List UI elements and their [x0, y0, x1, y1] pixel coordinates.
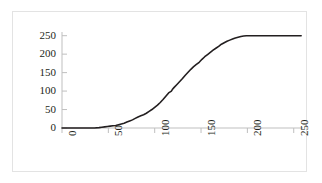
- x-tick-label: 0: [67, 131, 78, 137]
- x-tick-label: 250: [299, 120, 310, 137]
- y-tick-label: 150: [22, 67, 56, 78]
- y-tick-marks: [62, 36, 67, 128]
- axis-lines: [62, 32, 303, 128]
- x-tick-label: 200: [252, 120, 263, 137]
- x-tick-label: 50: [113, 125, 124, 136]
- data-series-line: [62, 36, 301, 128]
- y-tick-label: 100: [22, 85, 56, 96]
- x-tick-label: 150: [206, 120, 217, 137]
- y-tick-label: 50: [22, 104, 56, 115]
- chart-figure: 050100150200250 050100150200250: [0, 0, 322, 183]
- y-tick-label: 200: [22, 48, 56, 59]
- y-tick-label: 250: [22, 30, 56, 41]
- x-tick-label: 100: [160, 120, 171, 137]
- y-tick-label: 0: [22, 122, 56, 133]
